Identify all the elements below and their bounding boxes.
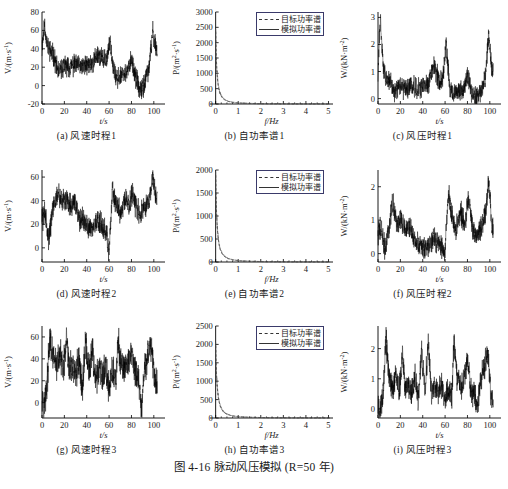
svg-text:80: 80 <box>127 106 136 116</box>
svg-text:0: 0 <box>371 404 375 414</box>
svg-text:100: 100 <box>147 420 160 430</box>
svg-text:0: 0 <box>214 420 218 430</box>
svg-text:60: 60 <box>105 264 114 274</box>
svg-text:2: 2 <box>371 182 375 192</box>
svg-text:1500: 1500 <box>196 53 213 63</box>
subplot-caption-f: (f) 风压时程2 <box>338 288 507 301</box>
svg-text:2: 2 <box>259 420 263 430</box>
plot-area-c: 0123020406080100t/sW/(kN·m-2) <box>338 2 507 130</box>
svg-text:0: 0 <box>35 398 39 408</box>
svg-text:4: 4 <box>304 106 309 116</box>
chart-svg-c: 0123020406080100t/sW/(kN·m-2) <box>338 2 507 130</box>
svg-text:80: 80 <box>127 264 136 274</box>
svg-text:40: 40 <box>31 354 40 364</box>
svg-text:80: 80 <box>127 420 136 430</box>
svg-text:20: 20 <box>396 264 405 274</box>
svg-text:20: 20 <box>60 420 69 430</box>
svg-text:60: 60 <box>31 332 40 342</box>
svg-text:V/(m·s-1): V/(m·s-1) <box>3 42 13 74</box>
svg-text:20: 20 <box>31 376 40 386</box>
svg-text:0: 0 <box>208 99 212 109</box>
svg-text:0: 0 <box>371 249 375 259</box>
chart-svg-a: -20020406080020406080100t/sV/(m·s-1) <box>2 2 171 130</box>
svg-text:t/s: t/s <box>435 430 444 440</box>
svg-text:V/(m·s-1): V/(m·s-1) <box>3 200 13 232</box>
svg-text:40: 40 <box>418 106 427 116</box>
svg-text:1: 1 <box>371 215 375 225</box>
svg-text:P/(m2·s-1): P/(m2·s-1) <box>171 199 181 233</box>
svg-text:0: 0 <box>40 264 44 274</box>
svg-text:1: 1 <box>371 374 375 384</box>
legend-b: 目标功率谱模拟功率谱 <box>256 12 324 36</box>
subplot-f: 012020406080100t/sW/(kN·m-2) (f) 风压时程2 <box>338 160 507 310</box>
subplot-h: 05001000150020002500012345f/HzP/(m2·s-1)… <box>170 316 339 466</box>
svg-text:0: 0 <box>371 94 375 104</box>
legend-swatch-dashed-icon <box>259 19 279 20</box>
svg-text:40: 40 <box>418 264 427 274</box>
plot-area-a: -20020406080020406080100t/sV/(m·s-1) <box>2 2 171 130</box>
svg-text:40: 40 <box>418 420 427 430</box>
svg-text:60: 60 <box>105 106 114 116</box>
svg-text:f/Hz: f/Hz <box>264 274 279 284</box>
svg-text:40: 40 <box>31 44 40 54</box>
svg-text:f/Hz: f/Hz <box>264 430 279 440</box>
svg-text:0: 0 <box>35 243 39 253</box>
svg-text:1500: 1500 <box>196 188 213 198</box>
subplot-caption-h: (h) 自功率谱3 <box>170 444 339 457</box>
svg-text:20: 20 <box>60 264 69 274</box>
svg-text:1000: 1000 <box>196 211 213 221</box>
svg-text:t/s: t/s <box>99 430 108 440</box>
svg-text:P/(m2·s-1): P/(m2·s-1) <box>171 41 181 75</box>
chart-svg-d: 0204060020406080100t/sV/(m·s-1) <box>2 160 171 288</box>
svg-text:40: 40 <box>82 106 91 116</box>
svg-text:4: 4 <box>304 420 309 430</box>
subplot-caption-a: (a) 风速时程1 <box>2 130 171 143</box>
legend-item-simulated: 模拟功率谱 <box>259 182 321 192</box>
svg-text:80: 80 <box>463 264 472 274</box>
svg-text:60: 60 <box>31 25 40 35</box>
svg-text:1500: 1500 <box>196 358 213 368</box>
svg-text:60: 60 <box>31 172 40 182</box>
svg-text:100: 100 <box>147 264 160 274</box>
plot-area-d: 0204060020406080100t/sV/(m·s-1) <box>2 160 171 288</box>
svg-text:3: 3 <box>281 264 285 274</box>
svg-text:1: 1 <box>236 106 240 116</box>
svg-text:100: 100 <box>483 264 496 274</box>
svg-text:0: 0 <box>40 420 44 430</box>
svg-text:20: 20 <box>396 420 405 430</box>
legend-item-target: 目标功率谱 <box>259 14 321 24</box>
legend-label-target: 目标功率谱 <box>281 329 321 338</box>
svg-text:2000: 2000 <box>196 165 213 175</box>
svg-text:2: 2 <box>259 264 263 274</box>
svg-text:80: 80 <box>31 7 40 17</box>
svg-text:0: 0 <box>35 81 39 91</box>
svg-text:1000: 1000 <box>196 376 213 386</box>
svg-text:20: 20 <box>31 62 40 72</box>
svg-text:0: 0 <box>208 257 212 267</box>
svg-text:100: 100 <box>483 106 496 116</box>
svg-text:3: 3 <box>281 420 285 430</box>
legend-label-simulated: 模拟功率谱 <box>281 25 321 34</box>
legend-label-target: 目标功率谱 <box>281 173 321 182</box>
figure-container: -20020406080020406080100t/sV/(m·s-1) (a)… <box>0 0 508 489</box>
svg-text:60: 60 <box>441 106 450 116</box>
svg-text:1: 1 <box>236 264 240 274</box>
svg-text:0: 0 <box>208 413 212 423</box>
legend-swatch-solid-icon <box>259 29 279 30</box>
svg-text:40: 40 <box>82 420 91 430</box>
subplot-g: 0204060020406080100t/sV/(m·s-1) (g) 风速时程… <box>2 316 171 466</box>
legend-swatch-dashed-icon <box>259 177 279 178</box>
svg-text:t/s: t/s <box>435 116 444 126</box>
svg-text:20: 20 <box>396 106 405 116</box>
subplot-caption-d: (d) 风速时程2 <box>2 288 171 301</box>
legend-item-simulated: 模拟功率谱 <box>259 338 321 348</box>
svg-text:W/(kN·m-2): W/(kN·m-2) <box>339 195 349 236</box>
subplot-caption-b: (b) 自功率谱1 <box>170 130 339 143</box>
subplot-a: -20020406080020406080100t/sV/(m·s-1) (a)… <box>2 2 171 152</box>
legend-item-target: 目标功率谱 <box>259 172 321 182</box>
svg-text:60: 60 <box>105 420 114 430</box>
subplot-grid: -20020406080020406080100t/sV/(m·s-1) (a)… <box>0 2 508 454</box>
legend-item-simulated: 模拟功率谱 <box>259 24 321 34</box>
legend-swatch-solid-icon <box>259 343 279 344</box>
svg-text:3: 3 <box>371 12 375 22</box>
